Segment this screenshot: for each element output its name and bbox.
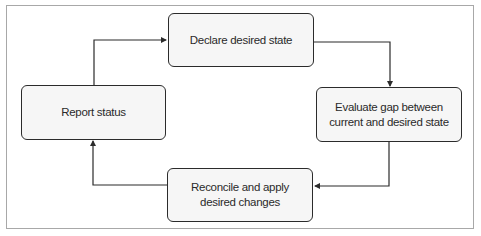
arrow-report-to-declare — [94, 40, 166, 85]
node-report-status: Report status — [21, 85, 166, 140]
node-evaluate-gap: Evaluate gap between current and desired… — [316, 87, 462, 142]
node-reconcile-apply: Reconcile and apply desired changes — [167, 168, 313, 222]
arrow-reconcile-to-report — [93, 141, 167, 185]
node-label: Evaluate gap between current and desired… — [323, 100, 455, 130]
node-label: Declare desired state — [190, 33, 292, 48]
node-label: Report status — [61, 105, 126, 120]
arrow-declare-to-evaluate — [314, 42, 390, 86]
node-label: Reconcile and apply desired changes — [174, 180, 306, 210]
arrow-evaluate-to-reconcile — [315, 142, 389, 186]
node-declare-desired-state: Declare desired state — [168, 13, 314, 67]
